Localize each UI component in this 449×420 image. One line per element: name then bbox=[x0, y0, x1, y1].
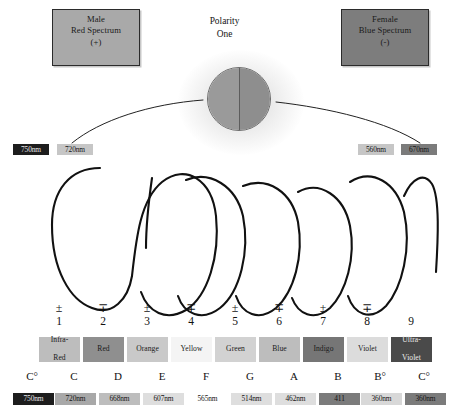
note-3: D bbox=[103, 370, 133, 382]
position-number-4: 4 bbox=[178, 315, 204, 327]
bottom-wavelength-7: 462nm bbox=[275, 393, 316, 405]
top-wavelength-left-inner: 720nm bbox=[57, 144, 93, 155]
bottom-wavelength-3: 668nm bbox=[99, 393, 140, 405]
colour-swatch-violet: Violet bbox=[347, 337, 388, 362]
bottom-wavelength-2: 720nm bbox=[55, 393, 96, 405]
position-number-2: 2 bbox=[90, 315, 116, 327]
colour-swatch-ultra-violet: Ultra- Violet bbox=[391, 337, 432, 362]
sign-8: ∓ bbox=[354, 301, 380, 316]
polarity-circle bbox=[207, 67, 271, 131]
bottom-wavelength-9: 360nm bbox=[361, 393, 402, 405]
sign-4: ∓ bbox=[178, 301, 204, 316]
top-wavelength-left-outer: 750nm bbox=[13, 144, 49, 155]
sign-2: ∓ bbox=[90, 301, 116, 316]
colour-label-ultra-violet-line2: Violet bbox=[391, 354, 432, 363]
colour-label-red: Red bbox=[83, 345, 124, 354]
top-wavelength-right-outer: 670nm bbox=[401, 144, 437, 155]
colour-swatch-yellow: Yellow bbox=[171, 337, 212, 362]
note-10: C° bbox=[409, 370, 439, 382]
note-5: F bbox=[191, 370, 221, 382]
top-wavelength-right-inner: 560nm bbox=[358, 144, 394, 155]
note-4: E bbox=[147, 370, 177, 382]
position-number-5: 5 bbox=[222, 315, 248, 327]
position-number-7: 7 bbox=[310, 315, 336, 327]
position-number-3: 3 bbox=[134, 315, 160, 327]
colour-label-infra-red-line1: Infra- bbox=[39, 336, 80, 345]
bottom-wavelength-1: 750nm bbox=[13, 393, 54, 405]
note-2: C bbox=[59, 370, 89, 382]
colour-label-blue: Blue bbox=[259, 345, 300, 354]
colour-swatch-green: Green bbox=[215, 337, 256, 362]
sign-7: ± bbox=[310, 301, 336, 316]
polarity-divider-line bbox=[239, 68, 240, 130]
note-9: B° bbox=[365, 370, 395, 382]
colour-swatch-orange: Orange bbox=[127, 337, 168, 362]
note-1: C° bbox=[17, 370, 47, 382]
colour-label-orange: Orange bbox=[127, 345, 168, 354]
position-number-8: 8 bbox=[354, 315, 380, 327]
sign-3: ± bbox=[134, 301, 160, 316]
colour-label-violet: Violet bbox=[347, 345, 388, 354]
helix-wave bbox=[52, 168, 438, 315]
colour-swatch-indigo: Indigo bbox=[303, 337, 344, 362]
colour-swatch-blue: Blue bbox=[259, 337, 300, 362]
bottom-wavelength-10: 360nm bbox=[405, 393, 446, 405]
position-number-6: 6 bbox=[266, 315, 292, 327]
position-number-1: 1 bbox=[46, 315, 72, 327]
note-6: G bbox=[235, 370, 265, 382]
polarity-half-left bbox=[208, 68, 239, 130]
bottom-wavelength-4: 607nm bbox=[143, 393, 184, 405]
sign-1: ± bbox=[46, 301, 72, 316]
colour-swatch-red: Red bbox=[83, 337, 124, 362]
polarity-label-line-1: Polarity bbox=[210, 16, 240, 26]
polarity-half-right bbox=[239, 68, 270, 130]
position-number-9: 9 bbox=[398, 315, 424, 327]
colour-label-indigo: Indigo bbox=[303, 345, 344, 354]
bottom-wavelength-6: 514nm bbox=[231, 393, 272, 405]
note-7: A bbox=[279, 370, 309, 382]
colour-label-yellow: Yellow bbox=[171, 345, 212, 354]
bottom-wavelength-8: 411 bbox=[319, 393, 360, 405]
bottom-wavelength-5: 565nm bbox=[187, 393, 228, 405]
sign-6: ∓ bbox=[266, 301, 292, 316]
polarity-label-line-2: One bbox=[217, 29, 233, 39]
colour-label-ultra-violet-line1: Ultra- bbox=[391, 336, 432, 345]
polarity-label: Polarity One bbox=[0, 15, 449, 40]
colour-label-infra-red-line2: Red bbox=[39, 354, 80, 363]
diagram-canvas: Male Red Spectrum (+) Female Blue Spectr… bbox=[0, 0, 449, 420]
sign-5: ± bbox=[222, 301, 248, 316]
colour-swatch-infra-red: Infra- Red bbox=[39, 337, 80, 362]
note-8: B bbox=[323, 370, 353, 382]
colour-label-green: Green bbox=[215, 345, 256, 354]
